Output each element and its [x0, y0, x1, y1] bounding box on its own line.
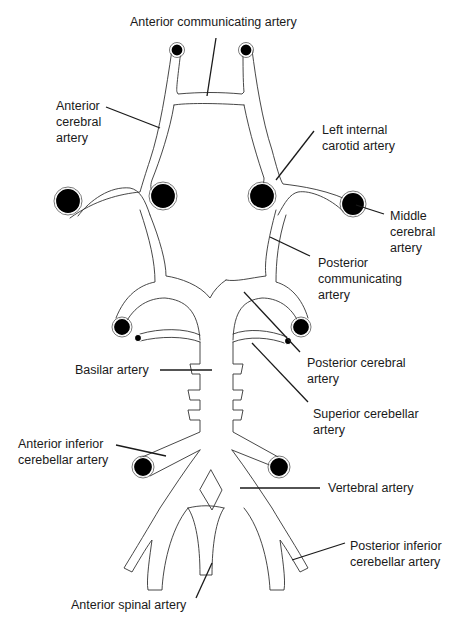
label-anterior-communicating-artery: Anterior communicating artery	[130, 14, 297, 30]
label-left-internal-carotid-artery: Left internal carotid artery	[322, 122, 395, 154]
ica-right-end	[250, 184, 275, 209]
label-anterior-inferior-cerebellar-artery: Anterior inferior cerebellar artery	[18, 436, 108, 468]
label-posterior-cerebral-artery: Posterior cerebral artery	[307, 355, 406, 387]
anterior-cerebral-vessels	[70, 50, 356, 218]
aica-right-end	[270, 458, 289, 477]
mca-left-end	[56, 189, 81, 214]
label-posterior-communicating-artery: Posterior communicating artery	[318, 255, 402, 303]
label-anterior-spinal-artery: Anterior spinal artery	[71, 597, 186, 613]
label-superior-cerebellar-artery: Superior cerebellar artery	[313, 406, 419, 438]
aca-left-end	[171, 44, 183, 56]
sca-left-end	[135, 335, 142, 342]
label-vertebral-artery: Vertebral artery	[328, 480, 413, 496]
posterior-communicating-vessels	[116, 210, 308, 340]
label-basilar-artery: Basilar artery	[75, 362, 149, 378]
label-anterior-cerebral-artery: Anterior cerebral artery	[56, 98, 101, 146]
aica-left-end	[134, 458, 153, 477]
label-posterior-inferior-cerebellar-artery: Posterior inferior cerebellar artery	[350, 538, 442, 570]
basilar-vessel	[140, 342, 282, 476]
pca-right-end	[293, 319, 310, 336]
ica-left-end	[151, 184, 176, 209]
aca-right-end	[240, 44, 252, 56]
mca-right-end	[342, 193, 365, 216]
pca-left-end	[114, 319, 131, 336]
superior-cerebellar-vessels	[140, 330, 287, 344]
label-middle-cerebral-artery: Middle cerebral artery	[390, 208, 435, 256]
